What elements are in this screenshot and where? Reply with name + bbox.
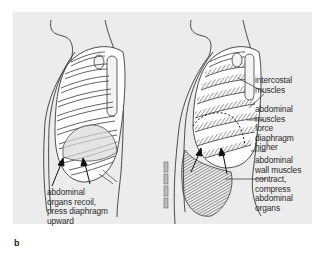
spine (164, 162, 168, 208)
label-intercostal-muscles: intercostal muscles (255, 76, 292, 95)
label-line: upward (47, 217, 108, 227)
diagram-panel: abdominal organs recoil, press diaphragm… (13, 12, 312, 224)
label-line: organs (255, 204, 301, 214)
label-line: muscles (255, 86, 292, 96)
figure-panel-letter: b (14, 238, 20, 248)
label-line: higher (255, 143, 294, 153)
label-abdominal-wall-muscles: abdominal wall muscles contract, compres… (255, 156, 301, 214)
label-abdominal-muscles-force: abdominal muscles force diaphragm higher (255, 105, 294, 153)
label-abdominal-organs-recoil: abdominal organs recoil, press diaphragm… (47, 188, 108, 226)
